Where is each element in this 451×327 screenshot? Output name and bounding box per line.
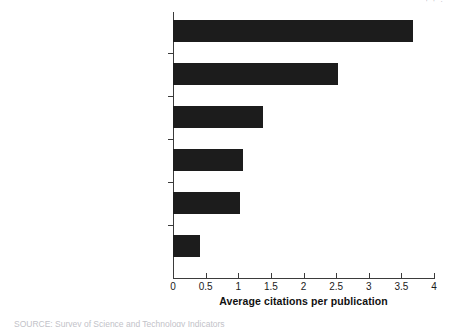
bar (173, 20, 413, 42)
x-tick-label: 3.5 (394, 281, 408, 292)
y-tick (168, 182, 173, 183)
y-tick (168, 53, 173, 54)
x-tick (206, 273, 207, 279)
x-tick-label: 0.5 (199, 281, 213, 292)
y-tick (168, 96, 173, 97)
x-tick-label: 2 (301, 281, 307, 292)
bar-row (173, 20, 434, 42)
x-tick (238, 273, 239, 279)
x-tick (434, 273, 435, 279)
x-tick (173, 273, 174, 279)
cropped-source-caption: SOURCE: Survey of Science and Technology… (14, 319, 225, 327)
x-tick (369, 273, 370, 279)
x-tick (271, 273, 272, 279)
x-tick-label: 1 (235, 281, 241, 292)
x-tick (304, 273, 305, 279)
bar (173, 235, 200, 257)
bar-row (173, 192, 434, 214)
bar-row (173, 106, 434, 128)
bar (173, 106, 263, 128)
x-tick-label: 0 (170, 281, 176, 292)
bar-row (173, 235, 434, 257)
x-tick-label: 2.5 (329, 281, 343, 292)
bar-row (173, 63, 434, 85)
x-tick (401, 273, 402, 279)
y-tick (168, 139, 173, 140)
bar (173, 63, 338, 85)
y-tick (168, 225, 173, 226)
x-tick-label: 3 (366, 281, 372, 292)
cropped-header-text: ⌐ ⌐ , (426, 0, 443, 2)
x-tick (336, 273, 337, 279)
bar (173, 149, 243, 171)
x-tick-label: 1.5 (264, 281, 278, 292)
x-axis-title: Average citations per publication (173, 295, 434, 307)
bar-row (173, 149, 434, 171)
x-tick-label: 4 (431, 281, 437, 292)
bar (173, 192, 240, 214)
